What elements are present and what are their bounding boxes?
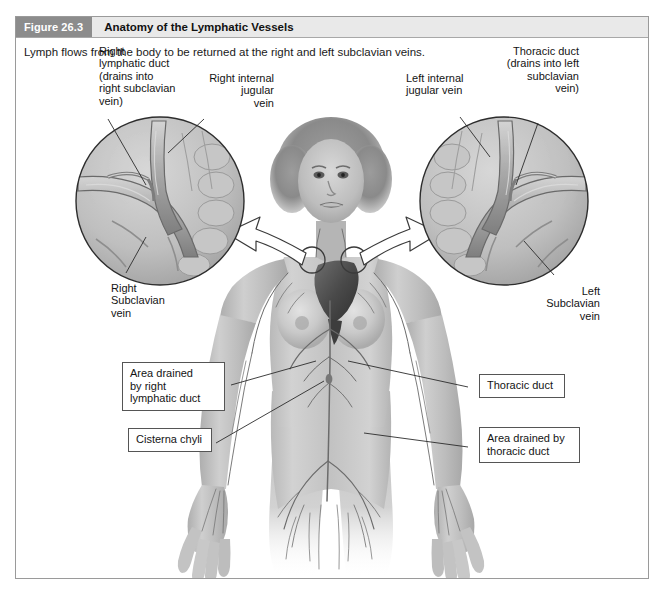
left-hand <box>178 485 231 578</box>
right-hand <box>432 485 485 578</box>
label-right-lymphatic-duct: Right lymphatic duct (drains into right … <box>99 45 199 107</box>
callout-area-drained-by-thoracic-duct: Area drained by thoracic duct <box>479 427 580 463</box>
figure-header: Figure 26.3 Anatomy of the Lymphatic Ves… <box>16 17 648 38</box>
figure-frame: Figure 26.3 Anatomy of the Lymphatic Ves… <box>15 16 649 579</box>
callout-cisterna-chyli: Cisterna chyli <box>128 428 212 452</box>
callout-area-drained-by-right-lymphatic-duct: Area drained by right lymphatic duct <box>122 362 225 411</box>
label-right-internal-jugular-vein: Right internal jugular vein <box>186 72 274 109</box>
figure-number-tab: Figure 26.3 <box>16 17 92 37</box>
figure-caption: Lymph flows from the body to be returned… <box>24 46 425 58</box>
label-right-subclavian-vein: Right Subclavian vein <box>111 282 191 319</box>
label-thoracic-duct-drains-into-left-subclavian-vein: Thoracic duct (drains into left subclavi… <box>471 45 579 95</box>
inset-right <box>420 117 588 285</box>
figure-title: Anatomy of the Lymphatic Vessels <box>92 17 293 37</box>
label-left-subclavian-vein: Left Subclavian vein <box>528 285 600 322</box>
callout-thoracic-duct: Thoracic duct <box>479 374 565 398</box>
inset-left <box>76 117 244 285</box>
